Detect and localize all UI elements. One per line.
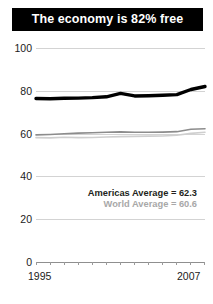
x-axis-label-end: 2007 [177,271,200,282]
y-tick-80: 80 [2,86,32,97]
x-tick-2007 [204,262,205,265]
series-container [36,48,205,262]
chart-title-banner: The economy is 82% free [12,8,203,31]
y-tick-0: 0 [2,257,32,268]
series-country [36,87,205,99]
x-tick-2006 [190,262,191,265]
x-tick-1999 [92,262,93,265]
chart-legend: Americas Average = 62.3 World Average = … [88,188,197,210]
x-tick-1998 [78,262,79,265]
x-tick-1996 [50,262,51,265]
y-tick-100: 100 [2,43,32,54]
page-title: The economy is 82% free [32,13,184,26]
y-tick-20: 20 [2,214,32,225]
x-tick-2005 [176,262,177,265]
legend-world-average: World Average = 60.6 [88,199,197,210]
series-americas-average [36,129,205,135]
x-tick-1997 [64,262,65,265]
x-tick-2004 [162,262,163,265]
x-tick-2001 [120,262,121,265]
legend-americas-average: Americas Average = 62.3 [88,188,197,199]
plot-area: Americas Average = 62.3 World Average = … [36,48,205,262]
y-tick-60: 60 [2,129,32,140]
x-tick-1995 [36,262,37,265]
x-tick-2002 [134,262,135,265]
x-axis-label-start: 1995 [28,271,51,282]
y-tick-40: 40 [2,171,32,182]
x-tick-2003 [148,262,149,265]
x-tick-2000 [106,262,107,265]
economic-freedom-chart: The economy is 82% free 100 80 60 40 20 … [0,0,213,304]
